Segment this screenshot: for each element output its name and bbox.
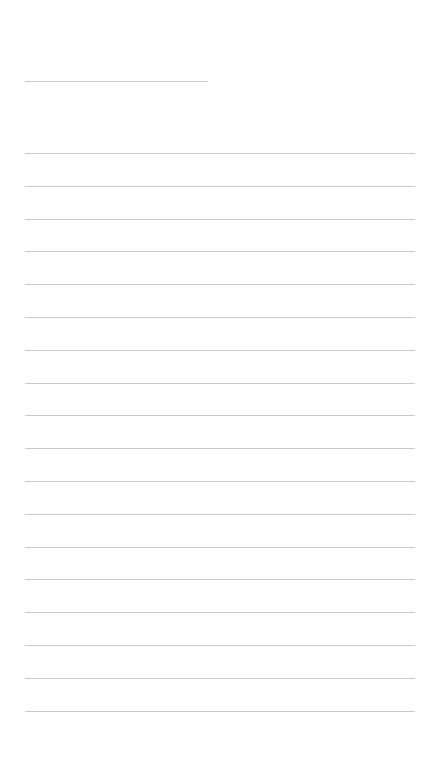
ruled-line [25, 711, 415, 712]
ruled-line [25, 219, 415, 220]
ruled-line [25, 284, 415, 285]
ruled-line [25, 415, 415, 416]
ruled-line [25, 153, 415, 154]
ruled-line [25, 645, 415, 646]
ruled-line [25, 251, 415, 252]
ruled-line [25, 612, 415, 613]
ruled-line [25, 350, 415, 351]
ruled-line [25, 448, 415, 449]
ruled-line [25, 579, 415, 580]
ruled-line [25, 383, 415, 384]
ruled-line [25, 514, 415, 515]
header-line [25, 81, 208, 82]
ruled-line [25, 678, 415, 679]
ruled-line [25, 186, 415, 187]
ruled-line [25, 547, 415, 548]
ruled-line [25, 481, 415, 482]
ruled-line [25, 317, 415, 318]
